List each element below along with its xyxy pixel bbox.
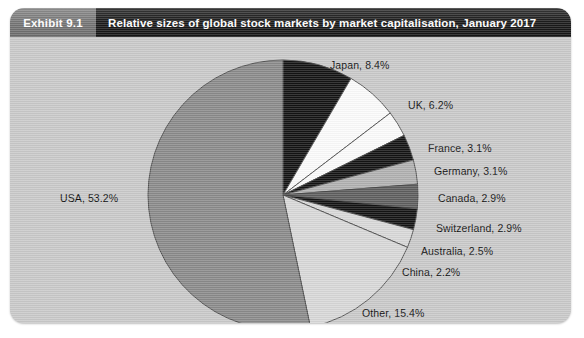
pie-chart-svg <box>10 37 571 323</box>
pie-label-germany: Germany, 3.1% <box>434 165 507 177</box>
pie-label-france: France, 3.1% <box>428 142 492 154</box>
exhibit-panel: Exhibit 9.1 Relative sizes of global sto… <box>10 8 571 323</box>
pie-label-china: China, 2.2% <box>402 266 460 278</box>
pie-label-usa: USA, 53.2% <box>60 192 118 204</box>
pie-label-switzerland: Switzerland, 2.9% <box>436 222 522 234</box>
pie-label-other: Other, 15.4% <box>362 307 425 319</box>
pie-label-japan: Japan, 8.4% <box>330 59 389 71</box>
pie-slice-group <box>148 60 418 323</box>
exhibit-title-text: Relative sizes of global stock markets b… <box>108 17 536 29</box>
pie-label-australia: Australia, 2.5% <box>421 245 493 257</box>
exhibit-number-cell: Exhibit 9.1 <box>10 8 96 37</box>
exhibit-title-cell: Relative sizes of global stock markets b… <box>96 8 571 37</box>
pie-chart-area: Japan, 8.4%UK, 6.2%France, 3.1%Germany, … <box>10 37 571 323</box>
pie-label-canada: Canada, 2.9% <box>438 192 506 204</box>
exhibit-number-label: Exhibit 9.1 <box>23 17 83 29</box>
exhibit-header: Exhibit 9.1 Relative sizes of global sto… <box>10 8 571 37</box>
pie-label-uk: UK, 6.2% <box>408 99 453 111</box>
